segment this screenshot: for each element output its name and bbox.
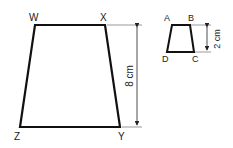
trapezoid-abcd (167, 25, 194, 52)
vertex-label-b: B (188, 13, 194, 23)
vertex-label-x: X (100, 12, 107, 23)
vertex-label-c: C (192, 54, 199, 64)
vertex-label-z: Z (14, 131, 20, 142)
height-label-8cm: 8 cm (124, 65, 135, 87)
height-label-2cm: 2 cm (212, 29, 222, 49)
vertex-label-a: A (164, 13, 170, 23)
similar-trapezoids-diagram: W X Y Z 8 cm A B C D 2 cm (0, 0, 233, 148)
vertex-label-y: Y (118, 131, 125, 142)
trapezoid-wxyz (20, 25, 120, 127)
vertex-label-d: D (162, 54, 169, 64)
vertex-label-w: W (29, 12, 39, 23)
